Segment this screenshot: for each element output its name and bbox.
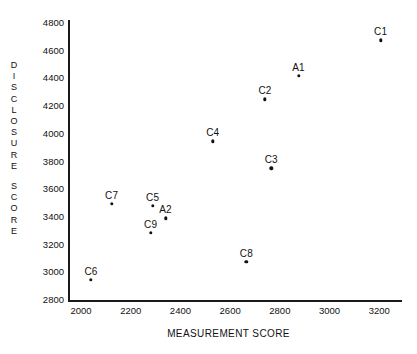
data-point-a2 [164, 217, 167, 220]
y-axis-title-char: O [7, 116, 21, 127]
y-axis-title-char: S [7, 181, 21, 192]
data-point-label-c6: C6 [84, 267, 97, 277]
data-point-c3 [269, 167, 272, 170]
x-tick-label: 2400 [155, 306, 205, 316]
data-point-c7 [110, 202, 113, 205]
data-point-c8 [245, 260, 248, 263]
x-tick-label: 2600 [205, 306, 255, 316]
data-point-label-a1: A1 [292, 63, 304, 73]
y-axis-title-char: O [7, 203, 21, 214]
data-point-label-c2: C2 [258, 86, 271, 96]
data-point-label-c4: C4 [206, 128, 219, 138]
y-tick-label: 3800 [28, 157, 64, 167]
y-axis-title-char [7, 172, 21, 181]
data-point-c9 [149, 231, 152, 234]
x-tick-label: 2000 [56, 306, 106, 316]
y-axis-title-char: E [7, 226, 21, 237]
x-tick-label: 3000 [305, 306, 355, 316]
data-point-label-c5: C5 [146, 193, 159, 203]
y-axis-title-char: R [7, 150, 21, 161]
y-tick-label: 2800 [28, 295, 64, 305]
y-tick-label: 4600 [28, 46, 64, 56]
y-tick-label: 3600 [28, 184, 64, 194]
y-axis-title-char: U [7, 138, 21, 149]
data-point-label-c1: C1 [374, 27, 387, 37]
y-axis-line [68, 20, 70, 302]
y-tick-label: 4000 [28, 129, 64, 139]
data-point-c2 [263, 97, 266, 100]
y-axis-title: DISCLOSURESCORE [7, 60, 21, 237]
data-point-label-c3: C3 [265, 155, 278, 165]
y-axis-title-char: S [7, 82, 21, 93]
y-axis-title-char: C [7, 192, 21, 203]
y-tick-label: 3200 [28, 240, 64, 250]
y-axis-title-char: R [7, 215, 21, 226]
data-point-label-c9: C9 [144, 220, 157, 230]
data-point-label-a2: A2 [159, 205, 171, 215]
data-point-c5 [151, 204, 154, 207]
data-point-c4 [211, 140, 214, 143]
y-axis-title-char: L [7, 105, 21, 116]
data-point-c1 [379, 39, 382, 42]
y-axis-title-char: E [7, 161, 21, 172]
scatter-plot-figure: DISCLOSURESCORE MEASUREMENT SCORE 480046… [0, 0, 417, 354]
data-point-a1 [297, 74, 300, 77]
x-tick-label: 2200 [106, 306, 156, 316]
y-axis-title-char: I [7, 71, 21, 82]
y-tick-label: 4800 [28, 18, 64, 28]
y-axis-title-char: C [7, 94, 21, 105]
y-axis-title-char: S [7, 127, 21, 138]
y-axis-title-char: D [7, 60, 21, 71]
data-point-c6 [89, 278, 92, 281]
y-tick-label: 4200 [28, 101, 64, 111]
y-tick-label: 4400 [28, 74, 64, 84]
x-axis-title: MEASUREMENT SCORE [0, 328, 417, 339]
y-tick-label: 3000 [28, 268, 64, 278]
x-axis-line [68, 300, 402, 302]
data-point-label-c7: C7 [105, 191, 118, 201]
x-tick-label: 3200 [354, 306, 404, 316]
data-point-label-c8: C8 [240, 249, 253, 259]
y-tick-label: 3400 [28, 212, 64, 222]
x-tick-label: 2800 [255, 306, 305, 316]
